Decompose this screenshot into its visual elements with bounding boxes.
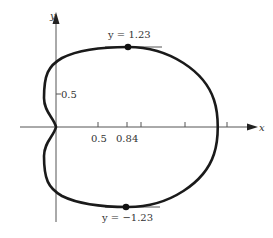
max-annotation: y = 1.23 [107, 29, 151, 40]
max-point [125, 44, 132, 51]
min-annotation: y = −1.23 [101, 212, 153, 223]
y-tick-label: 0.5 [61, 89, 77, 100]
x-axis-label: x [259, 122, 265, 133]
polar-plot: y x 0.5 0.5 0.84 y = 1.23 y = −1.23 [0, 0, 273, 238]
x-tick-label-0.84: 0.84 [116, 133, 138, 144]
min-point [123, 204, 130, 211]
x-ticks [98, 122, 227, 127]
x-tick-label-0.5: 0.5 [91, 133, 107, 144]
y-axis-label: y [49, 10, 56, 21]
x-axis-arrow-icon [247, 124, 258, 131]
